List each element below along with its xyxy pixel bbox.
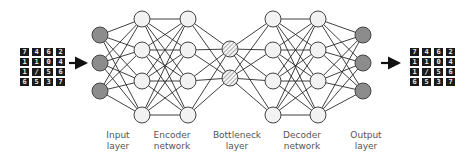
digit-image-tile: 4 (56, 58, 65, 66)
encoder-1-node (134, 107, 150, 123)
digit-image-tile: 1 (32, 58, 41, 66)
digit-image-tile: 4 (422, 48, 431, 56)
output-node (355, 27, 371, 43)
digit-image-tile: 6 (56, 68, 65, 76)
digit-image-tile: 1 (20, 68, 29, 76)
digit-image-tile: 3 (44, 78, 53, 86)
digit-image-tile: / (32, 68, 41, 76)
input-node (92, 55, 108, 71)
output-node (355, 83, 371, 99)
digit-image-tile: 7 (20, 48, 29, 56)
digit-image-tile: 1 (422, 58, 431, 66)
digit-image-tile: 4 (32, 48, 41, 56)
digit-image-tile: 6 (434, 48, 443, 56)
output-layer-label: Output layer (326, 130, 406, 152)
encoder-2-node (180, 42, 196, 58)
digit-image-tile: 5 (32, 78, 41, 86)
encoder-1-node (134, 11, 150, 27)
encoder-2-node (180, 107, 196, 123)
digit-image-tile: 3 (434, 78, 443, 86)
digit-image-tile: 6 (446, 68, 455, 76)
digit-image-tile: 7 (446, 78, 455, 86)
decoder-1-node (265, 73, 281, 89)
encoder-2-node (180, 73, 196, 89)
decoder-1-node (265, 11, 281, 27)
digit-image-tile: 4 (446, 58, 455, 66)
digit-image-tile: 1 (20, 58, 29, 66)
input-image-grid: 746211041/566537 (20, 48, 65, 86)
digit-image-tile: 6 (20, 78, 29, 86)
decoder-2-node (310, 11, 326, 27)
input-node (92, 83, 108, 99)
encoder-1-node (134, 73, 150, 89)
output-image-grid: 746211041/566537 (410, 48, 455, 86)
digit-image-tile: 6 (44, 48, 53, 56)
digit-image-tile: 0 (44, 58, 53, 66)
digit-image-tile: 1 (410, 58, 419, 66)
decoder-2-node (310, 42, 326, 58)
input-node (92, 27, 108, 43)
connection-edges (100, 19, 363, 115)
bottleneck-node (222, 41, 238, 57)
decoder-2-node (310, 107, 326, 123)
decoder-2-node (310, 73, 326, 89)
encoder-1-node (134, 42, 150, 58)
digit-image-tile: / (422, 68, 431, 76)
digit-image-tile: 7 (56, 78, 65, 86)
digit-image-tile: 2 (56, 48, 65, 56)
decoder-1-node (265, 42, 281, 58)
digit-image-tile: 0 (434, 58, 443, 66)
output-node (355, 55, 371, 71)
digit-image-tile: 6 (410, 78, 419, 86)
digit-image-tile: 1 (410, 68, 419, 76)
bottleneck-node (222, 70, 238, 86)
digit-image-tile: 7 (410, 48, 419, 56)
decoder-1-node (265, 107, 281, 123)
digit-image-tile: 5 (434, 68, 443, 76)
digit-image-tile: 5 (44, 68, 53, 76)
encoder-2-node (180, 11, 196, 27)
digit-image-tile: 5 (422, 78, 431, 86)
digit-image-tile: 2 (446, 48, 455, 56)
